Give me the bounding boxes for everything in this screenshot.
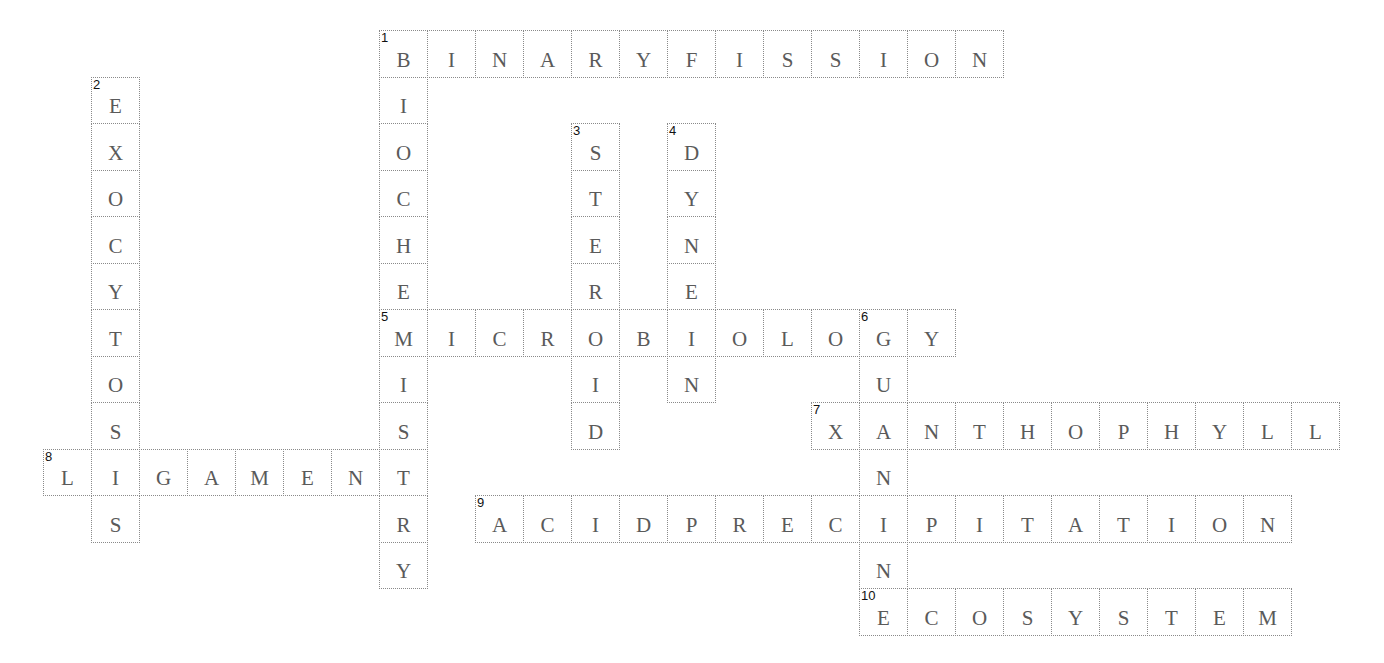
crossword-cell[interactable]: O bbox=[1051, 402, 1100, 450]
crossword-cell[interactable]: O bbox=[91, 356, 140, 404]
crossword-cell[interactable]: E bbox=[379, 263, 428, 311]
crossword-cell[interactable]: 3S bbox=[571, 123, 620, 171]
crossword-cell[interactable]: N bbox=[667, 356, 716, 404]
crossword-cell[interactable]: C bbox=[91, 216, 140, 264]
crossword-cell[interactable]: I bbox=[859, 495, 908, 543]
crossword-cell[interactable]: 1B bbox=[379, 30, 428, 78]
crossword-cell[interactable]: H bbox=[1003, 402, 1052, 450]
crossword-cell[interactable]: T bbox=[955, 402, 1004, 450]
crossword-cell[interactable]: R bbox=[523, 309, 572, 357]
crossword-cell[interactable]: L bbox=[1291, 402, 1340, 450]
crossword-cell[interactable]: L bbox=[763, 309, 812, 357]
crossword-cell[interactable]: H bbox=[379, 216, 428, 264]
crossword-cell[interactable]: L bbox=[1243, 402, 1292, 450]
crossword-cell[interactable]: E bbox=[763, 495, 812, 543]
crossword-cell[interactable]: 5M bbox=[379, 309, 428, 357]
crossword-cell[interactable]: T bbox=[571, 170, 620, 218]
crossword-cell[interactable]: C bbox=[907, 588, 956, 636]
crossword-cell[interactable]: E bbox=[283, 449, 332, 497]
crossword-cell[interactable]: 10E bbox=[859, 588, 908, 636]
crossword-cell[interactable]: S bbox=[379, 402, 428, 450]
crossword-cell[interactable]: I bbox=[1147, 495, 1196, 543]
crossword-cell[interactable]: F bbox=[667, 30, 716, 78]
crossword-cell[interactable]: R bbox=[571, 263, 620, 311]
crossword-cell[interactable]: I bbox=[427, 30, 476, 78]
crossword-cell[interactable]: P bbox=[667, 495, 716, 543]
crossword-cell[interactable]: Y bbox=[667, 170, 716, 218]
crossword-cell[interactable]: 9A bbox=[475, 495, 524, 543]
crossword-cell[interactable]: A bbox=[187, 449, 236, 497]
crossword-cell[interactable]: I bbox=[379, 356, 428, 404]
crossword-cell[interactable]: D bbox=[571, 402, 620, 450]
crossword-cell[interactable]: O bbox=[91, 170, 140, 218]
crossword-cell[interactable]: X bbox=[91, 123, 140, 171]
crossword-cell[interactable]: A bbox=[523, 30, 572, 78]
crossword-cell[interactable]: Y bbox=[379, 542, 428, 590]
crossword-cell[interactable]: B bbox=[619, 309, 668, 357]
crossword-cell[interactable]: R bbox=[715, 495, 764, 543]
crossword-cell[interactable]: M bbox=[235, 449, 284, 497]
crossword-cell[interactable]: I bbox=[667, 309, 716, 357]
crossword-cell[interactable]: O bbox=[571, 309, 620, 357]
crossword-cell[interactable]: 2E bbox=[91, 77, 140, 125]
crossword-cell[interactable]: A bbox=[859, 402, 908, 450]
crossword-cell[interactable]: S bbox=[1003, 588, 1052, 636]
crossword-cell[interactable]: I bbox=[955, 495, 1004, 543]
crossword-cell[interactable]: Y bbox=[91, 263, 140, 311]
crossword-cell[interactable]: I bbox=[571, 495, 620, 543]
crossword-cell[interactable]: S bbox=[91, 495, 140, 543]
crossword-cell[interactable]: 7X bbox=[811, 402, 860, 450]
crossword-cell[interactable]: S bbox=[1099, 588, 1148, 636]
crossword-cell[interactable]: Y bbox=[1051, 588, 1100, 636]
crossword-cell[interactable]: U bbox=[859, 356, 908, 404]
crossword-cell[interactable]: 6G bbox=[859, 309, 908, 357]
crossword-cell[interactable]: I bbox=[715, 30, 764, 78]
crossword-cell[interactable]: P bbox=[1099, 402, 1148, 450]
crossword-cell[interactable]: 4D bbox=[667, 123, 716, 171]
crossword-cell[interactable]: T bbox=[1003, 495, 1052, 543]
crossword-cell[interactable]: N bbox=[859, 542, 908, 590]
crossword-cell[interactable]: Y bbox=[619, 30, 668, 78]
crossword-cell[interactable]: I bbox=[91, 449, 140, 497]
crossword-cell[interactable]: Y bbox=[1195, 402, 1244, 450]
crossword-cell[interactable]: M bbox=[1243, 588, 1292, 636]
crossword-cell[interactable]: O bbox=[379, 123, 428, 171]
crossword-cell[interactable]: S bbox=[91, 402, 140, 450]
crossword-cell[interactable]: O bbox=[955, 588, 1004, 636]
crossword-cell[interactable]: O bbox=[715, 309, 764, 357]
crossword-cell[interactable]: N bbox=[475, 30, 524, 78]
crossword-cell[interactable]: Y bbox=[907, 309, 956, 357]
crossword-cell[interactable]: C bbox=[379, 170, 428, 218]
crossword-cell[interactable]: T bbox=[91, 309, 140, 357]
crossword-cell[interactable]: T bbox=[1147, 588, 1196, 636]
crossword-cell[interactable]: I bbox=[859, 30, 908, 78]
crossword-cell[interactable]: C bbox=[811, 495, 860, 543]
crossword-cell[interactable]: 8L bbox=[43, 449, 92, 497]
crossword-cell[interactable]: N bbox=[955, 30, 1004, 78]
crossword-cell[interactable]: N bbox=[667, 216, 716, 264]
crossword-cell[interactable]: A bbox=[1051, 495, 1100, 543]
crossword-cell[interactable]: P bbox=[907, 495, 956, 543]
crossword-cell[interactable]: R bbox=[571, 30, 620, 78]
crossword-cell[interactable]: D bbox=[619, 495, 668, 543]
crossword-cell[interactable]: N bbox=[907, 402, 956, 450]
crossword-cell[interactable]: S bbox=[763, 30, 812, 78]
crossword-cell[interactable]: C bbox=[523, 495, 572, 543]
crossword-cell[interactable]: N bbox=[331, 449, 380, 497]
crossword-cell[interactable]: E bbox=[571, 216, 620, 264]
crossword-cell[interactable]: T bbox=[379, 449, 428, 497]
crossword-cell[interactable]: T bbox=[1099, 495, 1148, 543]
crossword-cell[interactable]: I bbox=[379, 77, 428, 125]
crossword-cell[interactable]: C bbox=[475, 309, 524, 357]
crossword-cell[interactable]: H bbox=[1147, 402, 1196, 450]
crossword-cell[interactable]: E bbox=[667, 263, 716, 311]
crossword-cell[interactable]: E bbox=[1195, 588, 1244, 636]
crossword-cell[interactable]: I bbox=[427, 309, 476, 357]
crossword-cell[interactable]: N bbox=[1243, 495, 1292, 543]
crossword-cell[interactable]: O bbox=[907, 30, 956, 78]
crossword-cell[interactable]: G bbox=[139, 449, 188, 497]
crossword-cell[interactable]: I bbox=[571, 356, 620, 404]
crossword-cell[interactable]: O bbox=[811, 309, 860, 357]
crossword-cell[interactable]: S bbox=[811, 30, 860, 78]
crossword-cell[interactable]: R bbox=[379, 495, 428, 543]
